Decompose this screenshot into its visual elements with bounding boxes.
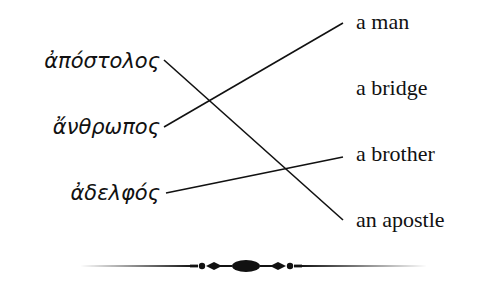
connection-line-adelphos-brother	[166, 157, 343, 193]
connection-line-apostolos-apostle	[164, 60, 343, 220]
ornamental-divider	[80, 260, 427, 272]
connection-line-anthropos-man	[164, 23, 343, 127]
connection-lines	[0, 0, 492, 284]
